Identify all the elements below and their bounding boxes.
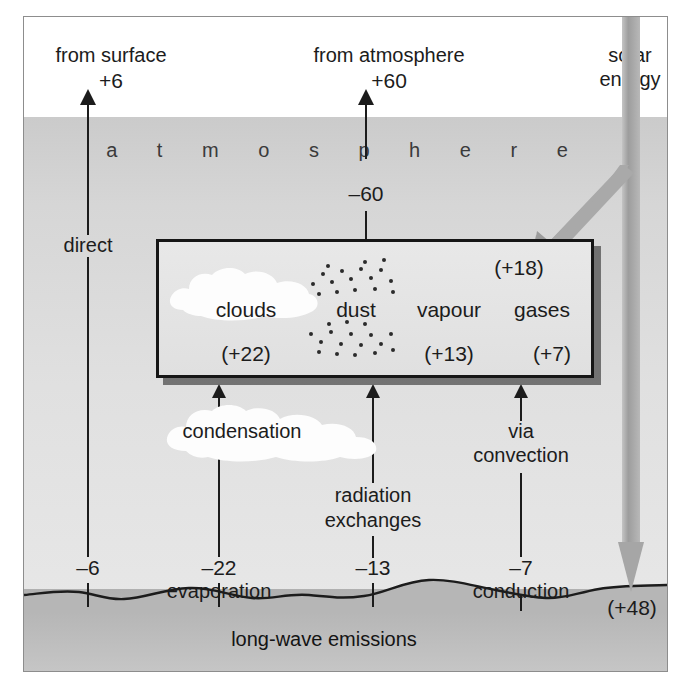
direct-line-upper bbox=[87, 103, 89, 235]
radiation-label-line2: exchanges bbox=[325, 510, 422, 532]
diagram-canvas: from surface +6 from atmosphere +60 sola… bbox=[0, 0, 693, 689]
absorbed-solar-value: (+48) bbox=[607, 597, 657, 620]
ground-surface-line bbox=[24, 573, 668, 613]
evaporation-value: –22 bbox=[201, 557, 236, 580]
diagram-frame: from surface +6 from atmosphere +60 sola… bbox=[23, 16, 668, 672]
convection-line-tail bbox=[520, 595, 522, 611]
minus-60-value: –60 bbox=[348, 183, 383, 206]
from-surface-label: from surface bbox=[55, 45, 166, 67]
radiation-line-tail bbox=[372, 583, 374, 607]
gasbox-value-vapour: (+13) bbox=[424, 342, 474, 366]
gasbox-value-gases: (+7) bbox=[533, 342, 571, 366]
gasbox-label-dust: dust bbox=[336, 298, 376, 322]
gasbox-value-18: (+18) bbox=[494, 256, 544, 280]
gasbox-label-gases: gases bbox=[514, 298, 570, 322]
condensation-line-lower bbox=[218, 445, 220, 557]
radiation-line-lower bbox=[372, 536, 374, 558]
space-band bbox=[24, 17, 667, 117]
atmosphere-band-label: a t m o s p h e r e bbox=[106, 139, 585, 162]
condensation-label: condensation bbox=[183, 421, 302, 443]
long-wave-emissions-label: long-wave emissions bbox=[231, 629, 417, 651]
convection-line-lower bbox=[520, 473, 522, 557]
from-atmosphere-label: from atmosphere bbox=[313, 45, 464, 67]
convection-arrowhead bbox=[514, 384, 528, 398]
direct-label: direct bbox=[60, 235, 117, 257]
direct-line-lower bbox=[87, 257, 89, 557]
convection-line-upper bbox=[520, 397, 522, 421]
convection-label-line1: via bbox=[508, 421, 534, 443]
radiation-arrowhead bbox=[366, 384, 380, 398]
solar-energy-beam-arrow bbox=[618, 17, 644, 592]
condensation-arrowhead bbox=[212, 384, 226, 398]
convection-label-line2: convection bbox=[473, 445, 569, 467]
from-surface-value: +6 bbox=[99, 70, 123, 93]
gasbox-label-clouds: clouds bbox=[216, 298, 277, 322]
from-atmosphere-value: +60 bbox=[371, 70, 407, 93]
gasbox-value-clouds: (+22) bbox=[221, 342, 271, 366]
atmosphere-absorbers-box[interactable]: clouds dust vapour gases (+18) (+22) (+1… bbox=[156, 239, 594, 378]
evaporation-label: evaporation bbox=[167, 581, 272, 603]
radiation-label-line1: radiation bbox=[335, 485, 412, 507]
from-atmosphere-line-upper bbox=[365, 103, 367, 159]
from-atmosphere-line-lower bbox=[365, 211, 367, 239]
conduction-value: –7 bbox=[509, 557, 532, 580]
gasbox-label-vapour: vapour bbox=[417, 298, 481, 322]
radiation-line-upper bbox=[372, 397, 374, 483]
radiation-surface-value: –13 bbox=[355, 557, 390, 580]
direct-surface-value: –6 bbox=[76, 557, 99, 580]
condensation-line-upper bbox=[218, 397, 220, 419]
direct-line-tail bbox=[87, 583, 89, 607]
